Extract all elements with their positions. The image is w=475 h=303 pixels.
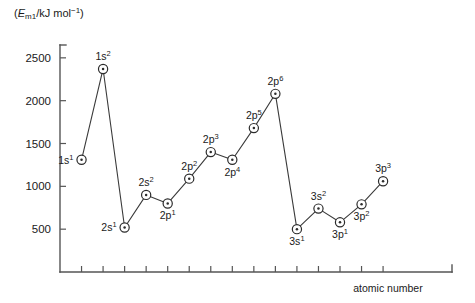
data-point-1s1 xyxy=(77,155,86,164)
point-label-2p2: 2p2 xyxy=(181,159,197,172)
data-point-2p6 xyxy=(271,89,280,98)
point-label-3p1: 3p1 xyxy=(332,227,348,240)
point-label-1s1: 1s1 xyxy=(58,153,73,166)
point-label-2p1: 2p1 xyxy=(160,208,176,221)
series-line-first-ionisation-energy xyxy=(82,69,384,229)
series-polyline xyxy=(82,69,384,229)
marker-dot xyxy=(145,194,148,197)
marker-dot xyxy=(317,207,320,210)
y-tick-label-2000: 2000 xyxy=(25,95,51,107)
data-point-2s1 xyxy=(120,223,129,232)
marker-dot xyxy=(188,177,191,180)
data-point-2p3 xyxy=(206,147,215,156)
marker-dot xyxy=(274,93,277,96)
data-point-2p5 xyxy=(249,123,258,132)
point-label-1s2: 1s2 xyxy=(95,49,110,62)
data-point-2p1 xyxy=(163,199,172,208)
point-label-2s2: 2s2 xyxy=(139,175,154,188)
data-point-3p1 xyxy=(335,218,344,227)
data-point-2p2 xyxy=(185,174,194,183)
marker-dot xyxy=(253,127,256,130)
marker-dot xyxy=(123,226,126,229)
marker-dot xyxy=(80,159,83,162)
data-point-1s2 xyxy=(98,64,107,73)
point-label-3p2: 3p2 xyxy=(354,209,370,222)
y-tick-label-1000: 1000 xyxy=(25,180,51,192)
x-axis-title: atomic number xyxy=(353,282,423,294)
point-label-3s1: 3s1 xyxy=(289,234,304,247)
data-point-3p2 xyxy=(357,200,366,209)
data-point-2p4 xyxy=(228,155,237,164)
point-label-2p6: 2p6 xyxy=(267,74,283,87)
point-label-2p4: 2p4 xyxy=(224,165,240,178)
axes xyxy=(60,45,452,272)
point-label-3s2: 3s2 xyxy=(311,189,326,202)
data-point-markers xyxy=(77,64,388,233)
marker-dot xyxy=(296,228,299,231)
data-point-2s2 xyxy=(142,190,151,199)
chart-canvas: 5001000150020002500 1s11s22s12s22p12p22p… xyxy=(0,0,475,303)
data-point-3p3 xyxy=(378,177,387,186)
marker-dot xyxy=(102,68,105,71)
marker-dot xyxy=(339,221,342,224)
x-axis-ticks xyxy=(82,266,384,272)
data-point-3s1 xyxy=(292,225,301,234)
y-tick-label-1500: 1500 xyxy=(25,138,51,150)
point-label-2p3: 2p3 xyxy=(203,132,219,145)
point-label-2s1: 2s1 xyxy=(101,220,116,233)
y-tick-label-2500: 2500 xyxy=(25,52,51,64)
marker-dot xyxy=(382,180,385,183)
marker-dot xyxy=(231,159,234,162)
point-label-3p3: 3p3 xyxy=(375,161,391,174)
ionisation-energy-chart: (Em1/kJ mol−1) 5001000150020002500 1s11s… xyxy=(0,0,475,303)
marker-dot xyxy=(166,202,169,205)
marker-dot xyxy=(360,203,363,206)
marker-dot xyxy=(210,151,213,154)
data-point-3s2 xyxy=(314,204,323,213)
y-tick-label-500: 500 xyxy=(32,223,51,235)
